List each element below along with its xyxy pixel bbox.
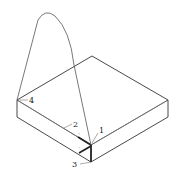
label-2: 2	[73, 120, 78, 129]
label-4: 4	[29, 96, 34, 105]
diagram-canvas: × × 1 2 3 4	[0, 0, 183, 181]
curve-path	[17, 13, 91, 145]
slab-front-right-edge-top	[91, 100, 168, 145]
slab-bottom-right-edge	[91, 117, 168, 162]
slab-top-face	[17, 56, 168, 145]
corner-mark-lower	[79, 146, 91, 153]
leader-3	[80, 162, 91, 164]
label-3: 3	[72, 160, 77, 169]
small-mark-b: ×	[78, 145, 80, 150]
corner-mark-top	[78, 137, 91, 145]
leader-2	[64, 124, 72, 128]
label-1: 1	[99, 126, 104, 135]
slab-bottom-left-edge	[17, 117, 91, 162]
small-mark-a: ×	[78, 131, 80, 136]
